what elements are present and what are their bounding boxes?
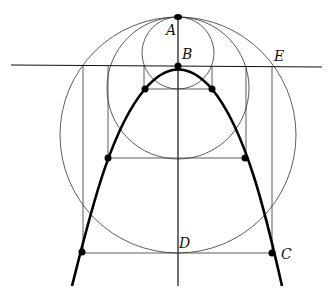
point-small-left bbox=[142, 86, 149, 93]
point-medium-right bbox=[242, 155, 249, 162]
parabola-curve bbox=[72, 70, 282, 287]
label-C: C bbox=[281, 246, 292, 262]
geometry-diagram: A B E D C bbox=[0, 0, 333, 294]
point-medium-left bbox=[105, 155, 112, 162]
point-C bbox=[269, 250, 276, 257]
point-A bbox=[174, 14, 182, 20]
label-E: E bbox=[273, 48, 284, 64]
label-B: B bbox=[181, 46, 192, 62]
point-B bbox=[175, 63, 182, 70]
horizontal-line bbox=[11, 65, 322, 67]
label-D: D bbox=[178, 235, 190, 251]
point-large-left bbox=[79, 249, 86, 256]
point-small-right bbox=[209, 86, 216, 93]
label-A: A bbox=[164, 22, 176, 38]
